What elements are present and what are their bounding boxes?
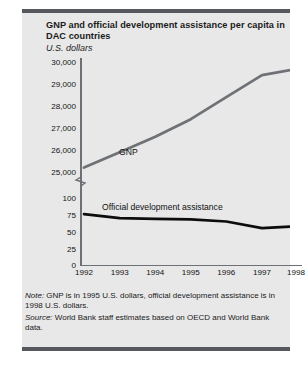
- series-line-oda: [84, 214, 290, 228]
- x-tick-1992: 1992: [75, 268, 93, 277]
- plot-area: 30,000 29,000 28,000 27,000 26,000 25,00…: [22, 56, 290, 271]
- note-lead: Note:: [25, 291, 44, 300]
- x-tick-1997: 1997: [253, 268, 271, 277]
- chart-title: GNP and official development assistance …: [46, 20, 296, 43]
- figure-panel: GNP and official development assistance …: [0, 0, 308, 365]
- x-tick-1996: 1996: [217, 268, 235, 277]
- bottom-rule: [22, 347, 290, 351]
- clipped-header-text: [118, 0, 298, 5]
- series-label-oda: Official development assistance: [102, 202, 223, 212]
- note-text: GNP is in 1995 U.S. dollars, official de…: [25, 291, 275, 310]
- x-tick-1994: 1994: [146, 268, 164, 277]
- data-lines: [22, 56, 290, 271]
- source-text: World Bank staff estimates based on OECD…: [25, 313, 269, 332]
- x-tick-1998: 1998: [287, 268, 305, 277]
- x-tick-1993: 1993: [111, 268, 129, 277]
- source-lead: Source:: [25, 313, 53, 322]
- x-tick-1995: 1995: [182, 268, 200, 277]
- chart-note: Note: GNP is in 1995 U.S. dollars, offic…: [25, 291, 287, 312]
- series-label-gnp: GNP: [119, 147, 138, 157]
- chart-source: Source: World Bank staff estimates based…: [25, 313, 287, 334]
- chart-subtitle: U.S. dollars: [46, 43, 93, 53]
- series-line-gnp: [84, 69, 290, 168]
